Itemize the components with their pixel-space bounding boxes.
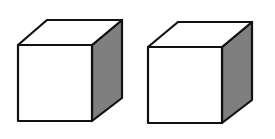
cube-2 [148, 22, 252, 123]
cube-2-front-face [148, 47, 222, 123]
cubes-diagram [0, 0, 275, 139]
cube-1 [18, 20, 122, 121]
cube-1-front-face [18, 45, 92, 121]
